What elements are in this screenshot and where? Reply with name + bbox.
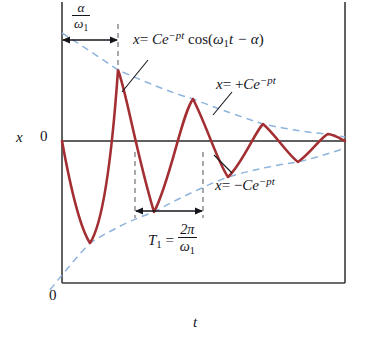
- period-label: T1 = 2π ω1: [148, 224, 197, 258]
- x-axis-origin-label: 0: [49, 288, 57, 303]
- lower-eq-exponent: −pt: [259, 175, 275, 187]
- main-eq-exponent: −pt: [169, 29, 185, 41]
- main-eq-cos: cos(: [188, 31, 213, 47]
- main-eq-alpha: α: [251, 31, 259, 47]
- phase-offset-label: α ω1: [72, 3, 90, 35]
- main-eq-amplitude: Ce: [152, 31, 169, 47]
- lower-envelope-curve: [50, 148, 345, 290]
- period-numerator: 2π: [178, 222, 197, 238]
- leader-line-main-equation: [122, 60, 148, 92]
- x-axis-label: t: [193, 315, 197, 330]
- phase-offset-denominator: ω1: [72, 16, 90, 32]
- main-eq-time: t −: [229, 31, 251, 47]
- main-eq-lhs: x: [133, 31, 140, 47]
- period-equals: =: [166, 232, 174, 248]
- period-symbol-subscript: 1: [156, 238, 161, 250]
- y-axis-origin-label: 0: [40, 129, 48, 144]
- y-axis-label: x: [16, 130, 23, 145]
- period-denominator-subscript: 1: [190, 245, 195, 256]
- main-eq-omega: ω: [213, 31, 224, 47]
- lower-eq-lhs: x: [215, 177, 222, 193]
- damped-oscillation-figure: α ω1 x= Ce−pt cos(ω1t − α) x= +Ce−pt x= …: [0, 0, 369, 346]
- lower-eq-amplitude: Ce: [242, 177, 259, 193]
- lower-envelope-label: x= −Ce−pt: [215, 176, 275, 193]
- upper-eq-amplitude: Ce: [243, 76, 260, 92]
- main-eq-equals: =: [140, 31, 148, 47]
- leader-line-upper-envelope: [213, 92, 232, 115]
- period-arrow: [135, 207, 203, 214]
- lower-eq-equals: = −: [222, 177, 243, 193]
- upper-envelope-label: x= +Ce−pt: [216, 75, 276, 92]
- main-equation-label: x= Ce−pt cos(ω1t − α): [133, 30, 264, 49]
- upper-eq-lhs: x: [216, 76, 223, 92]
- main-eq-close-paren: ): [259, 31, 264, 47]
- phase-offset-arrow: [62, 36, 118, 43]
- phase-offset-numerator: α: [72, 1, 90, 16]
- phase-offset-denominator-subscript: 1: [83, 22, 88, 33]
- period-denominator: ω1: [178, 238, 197, 256]
- upper-eq-exponent: −pt: [260, 74, 276, 86]
- upper-eq-equals: = +: [223, 76, 244, 92]
